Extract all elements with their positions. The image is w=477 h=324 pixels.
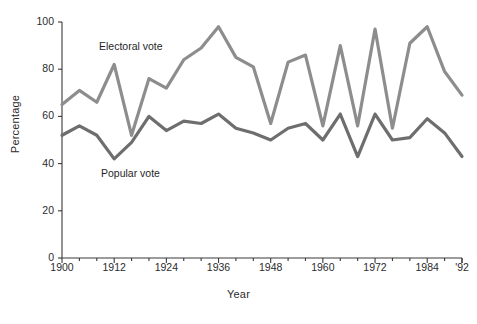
x-axis-title: Year — [0, 288, 477, 300]
plot-canvas — [0, 0, 477, 324]
x-axis-tick-label: 1972 — [352, 261, 398, 273]
x-axis-tick-label: '92 — [439, 261, 477, 273]
y-axis-tick-label: 100 — [20, 15, 54, 27]
x-axis-tick-label: 1900 — [39, 261, 85, 273]
series-line-popular-vote — [62, 114, 462, 159]
series-label-popular-vote: Popular vote — [101, 167, 160, 179]
y-axis-tick-label: 40 — [20, 157, 54, 169]
x-axis-tick-label: 1948 — [248, 261, 294, 273]
y-axis-tick-label: 80 — [20, 62, 54, 74]
x-axis-tick-label: 1960 — [300, 261, 346, 273]
y-axis-tick-label: 20 — [20, 204, 54, 216]
y-axis-tick-label: 60 — [20, 109, 54, 121]
chart-figure: Percentage Year Electoral vote Popular v… — [0, 0, 477, 324]
y-axis-title: Percentage — [9, 79, 21, 169]
series-label-electoral-vote: Electoral vote — [99, 40, 163, 52]
x-axis-tick-label: 1924 — [143, 261, 189, 273]
x-axis-tick-label: 1936 — [196, 261, 242, 273]
x-axis-tick-label: 1912 — [91, 261, 137, 273]
